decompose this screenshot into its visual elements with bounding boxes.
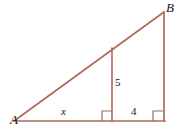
geometry-figure: A B x 5 4 (0, 0, 177, 129)
triangle-diagram-svg (0, 0, 177, 129)
hypotenuse-line (14, 12, 164, 121)
side-length-label-x: x (61, 106, 66, 117)
side-length-label-4: 4 (131, 106, 137, 117)
vertex-label-a: A (10, 113, 18, 126)
right-angle-marker-at-d (102, 111, 112, 121)
side-length-label-5: 5 (115, 77, 121, 88)
right-angle-marker-at-c (153, 111, 163, 121)
vertex-label-b: B (166, 1, 174, 14)
